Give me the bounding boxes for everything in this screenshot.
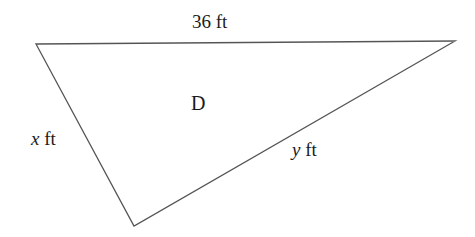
figure-canvas: 36 ft D x ft y ft <box>0 0 475 237</box>
side-length-label-left: x ft <box>31 129 56 148</box>
side-length-label-right: y ft <box>292 140 317 159</box>
triangle-outline <box>36 41 455 226</box>
triangle-shape <box>0 0 475 237</box>
unit-right-text: ft <box>305 139 317 160</box>
side-length-label-top: 36 ft <box>192 12 227 31</box>
side-length-top-text: 36 ft <box>192 11 227 32</box>
region-label-text: D <box>191 92 205 114</box>
unit-left-text: ft <box>44 128 56 149</box>
region-label: D <box>191 93 205 113</box>
